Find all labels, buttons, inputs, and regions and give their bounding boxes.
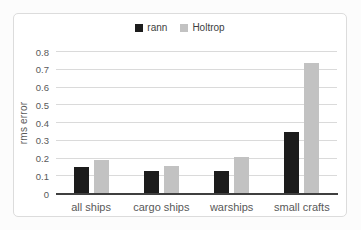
bar-group-all-ships (56, 52, 126, 194)
bar-group-small-crafts (267, 52, 337, 194)
bar-group-warships (197, 52, 267, 194)
bar-Holtrop-small-crafts (304, 63, 319, 194)
legend: rannHoltrop (14, 22, 346, 34)
bar-rann-cargo-ships (144, 171, 159, 194)
x-category-label-warships: warships (197, 201, 267, 214)
y-tick-label-0.7: 0.7 (9, 64, 49, 75)
bar-group-cargo-ships (126, 52, 196, 194)
bar-rann-warships (214, 171, 229, 194)
y-tick-label-0.8: 0.8 (9, 47, 49, 58)
legend-item-rann: rann (135, 22, 167, 34)
y-tick-label-0.4: 0.4 (9, 118, 49, 129)
bar-Holtrop-cargo-ships (164, 166, 179, 194)
legend-swatch-rann (135, 24, 143, 32)
y-tick-label-0.2: 0.2 (9, 153, 49, 164)
x-category-label-cargo-ships: cargo ships (126, 201, 196, 214)
legend-label-rann: rann (147, 22, 167, 34)
x-category-label-small-crafts: small crafts (267, 201, 337, 214)
legend-item-Holtrop: Holtrop (180, 22, 224, 34)
bar-Holtrop-warships (234, 157, 249, 194)
y-tick-label-0.3: 0.3 (9, 135, 49, 146)
y-tick-label-0.6: 0.6 (9, 82, 49, 93)
y-axis-tick-labels: 00.10.20.30.40.50.60.70.8 (9, 52, 49, 194)
bar-rann-all-ships (74, 167, 89, 194)
bar-groups (56, 52, 337, 194)
y-tick-label-0.1: 0.1 (9, 171, 49, 182)
x-category-label-all-ships: all ships (56, 201, 126, 214)
y-tick-label-0.5: 0.5 (9, 100, 49, 111)
screenshot-root: rannHoltrop 00.10.20.30.40.50.60.70.8 rm… (0, 0, 361, 230)
bar-Holtrop-all-ships (94, 160, 109, 194)
x-axis-line (56, 193, 338, 195)
plot-area: 00.10.20.30.40.50.60.70.8 rms error all … (56, 52, 337, 194)
bar-rann-small-crafts (284, 132, 299, 194)
y-axis-title: rms error (18, 102, 29, 144)
y-tick-label-0: 0 (9, 189, 49, 200)
x-axis-category-labels: all shipscargo shipswarshipssmall crafts (56, 201, 337, 214)
chart-frame: rannHoltrop 00.10.20.30.40.50.60.70.8 rm… (13, 13, 347, 217)
legend-swatch-Holtrop (180, 24, 188, 32)
legend-label-Holtrop: Holtrop (192, 22, 224, 34)
